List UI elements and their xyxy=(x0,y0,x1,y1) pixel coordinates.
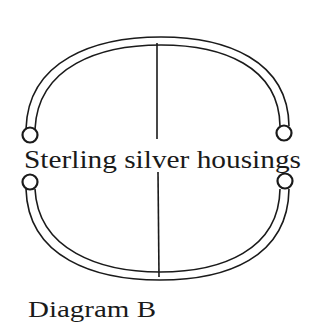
diagram-canvas: Sterling silver housings Diagram B xyxy=(0,0,327,327)
hinge-circle-lower-left xyxy=(23,175,38,190)
hinge-circle-lower-right xyxy=(278,174,293,189)
hinge-circle-upper-left xyxy=(23,128,38,143)
center-label: Sterling silver housings xyxy=(24,145,301,174)
hinge-circle-upper-right xyxy=(277,126,292,141)
divider-line-bottom xyxy=(158,172,159,277)
diagram-caption: Diagram B xyxy=(28,296,156,322)
